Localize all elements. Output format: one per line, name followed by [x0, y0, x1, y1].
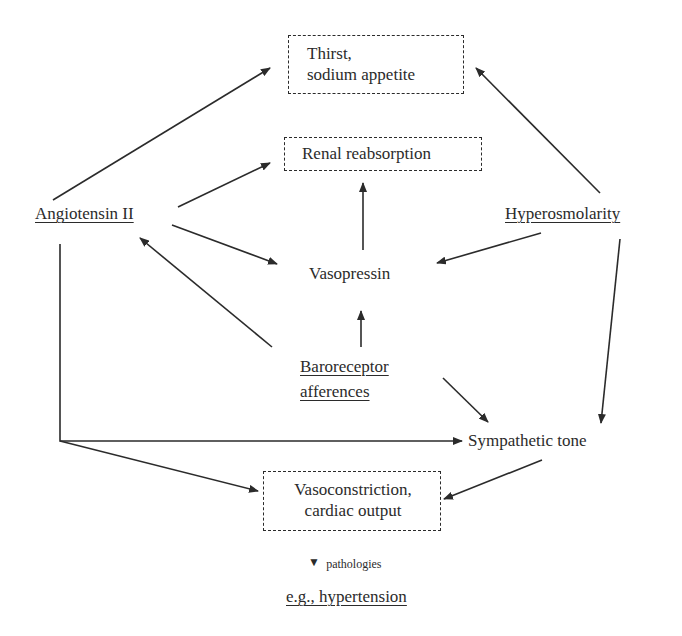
thirst-line2: sodium appetite — [307, 64, 415, 85]
renal-reabsorption-label: Renal reabsorption — [302, 143, 431, 164]
arrow-hyperosmolarity-to-sympathetic — [601, 239, 620, 423]
hypertension-node: e.g., hypertension — [286, 586, 407, 607]
baroreceptor-line1: Baroreceptor — [300, 356, 389, 377]
diagram-canvas: Thirst, sodium appetite Renal reabsorpti… — [0, 0, 682, 636]
arrow-hyperosmolarity-to-vasopressin — [437, 233, 541, 263]
arrow-angiotensin-to-vasopressin — [172, 225, 277, 264]
arrow-sympathetic-to-vasoconstriction — [444, 460, 542, 499]
vasoconstriction-label: Vasoconstriction, cardiac output — [278, 479, 428, 521]
thirst-label: Thirst, sodium appetite — [307, 43, 415, 85]
angiotensin-ii-node: Angiotensin II — [35, 203, 134, 224]
diagram-arrows — [0, 0, 682, 636]
vasopressin-node: Vasopressin — [309, 263, 390, 284]
sympathetic-tone-node: Sympathetic tone — [468, 430, 587, 451]
baroreceptor-afferences-node: Baroreceptor afferences — [300, 356, 389, 402]
baroreceptor-line2: afferences — [300, 381, 389, 402]
hyperosmolarity-node: Hyperosmolarity — [505, 203, 620, 224]
arrow-angiotensin-to-vasoconstriction — [60, 441, 258, 491]
arrow-angiotensin-to-thirst — [53, 68, 270, 200]
pathologies-annotation: ▼ pathologies — [308, 552, 381, 575]
pathologies-label: pathologies — [326, 557, 381, 571]
arrow-angiotensin-to-renal — [178, 163, 270, 207]
vasoconstriction-line2: cardiac output — [278, 500, 428, 521]
down-triangle-icon: ▼ — [308, 555, 320, 569]
arrow-baroreceptor-to-sympathetic — [443, 378, 488, 422]
vasoconstriction-line1: Vasoconstriction, — [278, 479, 428, 500]
thirst-line1: Thirst, — [307, 43, 415, 64]
arrow-angiotensin-to-sympathetic — [60, 244, 462, 441]
arrow-hyperosmolarity-to-thirst — [476, 68, 600, 193]
